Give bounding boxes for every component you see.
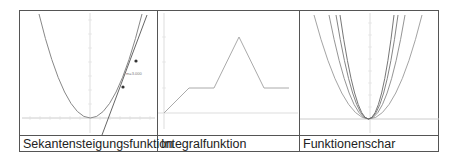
function-types-table: m=3.000 Sekan: [19, 10, 439, 152]
label-integral-function: Integralfunktion: [158, 136, 299, 152]
label-function-family: Funktionenschar: [300, 136, 439, 152]
label-secant-slope-function: Sekantensteigungsfunktion: [20, 136, 157, 152]
secant-slope-graph: m=3.000: [20, 11, 157, 135]
slope-annotation: m=3.000: [126, 71, 142, 76]
function-family-graph: [300, 11, 439, 135]
integral-function-graph: [158, 11, 299, 135]
